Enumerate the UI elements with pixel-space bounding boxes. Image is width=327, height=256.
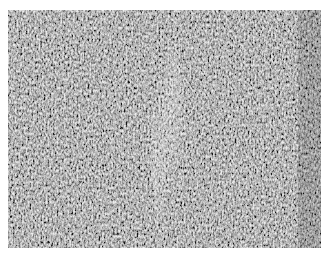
tissue-texture: [8, 10, 321, 248]
micrograph-image: [8, 10, 321, 248]
